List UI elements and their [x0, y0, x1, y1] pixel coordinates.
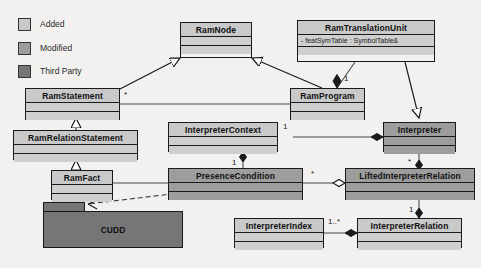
multiplicity-ramtranslationunit-one: 1: [344, 74, 348, 83]
class-title: RamFact: [52, 171, 112, 185]
class-operations: [169, 146, 277, 154]
class-interpreterindex[interactable]: InterpreterIndex: [234, 218, 324, 248]
package-name: CUDD: [43, 211, 183, 248]
class-title: RamTranslationUnit: [298, 21, 434, 35]
class-operations: [26, 112, 119, 120]
class-interpretercontext[interactable]: InterpreterContext: [168, 122, 278, 152]
class-ramfact[interactable]: RamFact: [51, 170, 113, 200]
legend-swatch-third-party: [18, 65, 31, 78]
legend-swatch-added: [18, 18, 31, 31]
class-title: InterpreterContext: [169, 123, 277, 137]
multiplicity-interpreterindex-onestar: 1..*: [328, 217, 340, 226]
legend-label-modified: Modified: [40, 42, 72, 55]
class-title: LiftedInterpreterRelation: [346, 169, 474, 183]
legend-label-third-party: Third Party: [40, 65, 82, 78]
class-attributes: [384, 137, 455, 146]
multiplicity-ramstatement-star: *: [124, 90, 127, 99]
class-operations: [346, 192, 474, 200]
class-ramprogram[interactable]: RamProgram: [290, 88, 365, 120]
class-title: InterpreterRelation: [358, 219, 461, 233]
class-operations: [181, 46, 251, 54]
class-title: RamProgram: [291, 89, 364, 103]
class-attributes: [169, 183, 302, 192]
class-attributes: [291, 103, 364, 112]
class-interpreter[interactable]: Interpreter: [383, 122, 456, 152]
class-operations: [169, 192, 302, 200]
class-attributes: [26, 103, 119, 112]
class-title: RamNode: [181, 23, 251, 37]
class-attributes: [52, 185, 112, 194]
multiplicity-presencecondition-one: 1: [232, 158, 236, 167]
class-attributes: [169, 137, 277, 146]
class-ramstatement[interactable]: RamStatement: [25, 88, 120, 120]
class-ramtranslationunit[interactable]: RamTranslationUnit - featSymTable : Symb…: [297, 20, 435, 62]
multiplicity-presencecondition-star: *: [311, 169, 314, 178]
class-attributes: [358, 233, 461, 242]
class-operations: [291, 112, 364, 120]
class-title: Interpreter: [384, 123, 455, 137]
class-operations: [298, 47, 434, 55]
multiplicity-interpreter-star: *: [408, 157, 411, 166]
class-attributes: - featSymTable : SymbolTable&: [298, 35, 434, 47]
class-ramnode[interactable]: RamNode: [180, 22, 252, 58]
legend-label-added: Added: [40, 18, 65, 31]
class-operations: [358, 242, 461, 250]
class-presencecondition[interactable]: PresenceCondition: [168, 168, 303, 200]
class-operations: [14, 154, 137, 162]
class-attributes: [346, 183, 474, 192]
class-interpreterrelation[interactable]: InterpreterRelation: [357, 218, 462, 248]
class-title: PresenceCondition: [169, 169, 302, 183]
class-operations: [384, 146, 455, 154]
package-cudd[interactable]: CUDD: [43, 202, 183, 248]
class-ramrelationstatement[interactable]: RamRelationStatement: [13, 130, 138, 160]
legend-swatch-modified: [18, 42, 31, 55]
class-operations: [52, 194, 112, 202]
class-attributes: [14, 145, 137, 154]
class-title: RamRelationStatement: [14, 131, 137, 145]
class-attributes: [181, 37, 251, 46]
class-title: InterpreterIndex: [235, 219, 323, 233]
class-liftedinterpreterrelation[interactable]: LiftedInterpreterRelation: [345, 168, 475, 200]
class-attributes: [235, 233, 323, 242]
multiplicity-liftedrelation-one: 1: [409, 205, 413, 214]
multiplicity-interpretercontext-one: 1: [283, 122, 287, 131]
class-title: RamStatement: [26, 89, 119, 103]
class-operations: [235, 242, 323, 250]
